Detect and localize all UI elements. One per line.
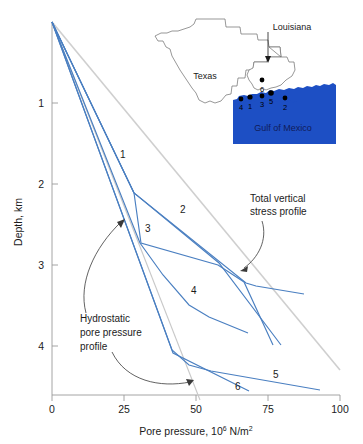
well-curve-2: [52, 22, 281, 345]
map-well-marker-label-6: 6: [260, 85, 264, 94]
curve-label-2: 2: [180, 204, 186, 215]
annotation-hydrostatic-line3: profile: [80, 341, 108, 352]
x-tick-label-50: 50: [190, 403, 202, 415]
annotation-total-vertical-stress-line2: stress profile: [250, 206, 307, 217]
x-tick-label-100: 100: [331, 403, 349, 415]
map-well-marker-label-1: 1: [248, 102, 252, 111]
y-axis-title: Depth, km: [12, 198, 24, 246]
annotation-hydrostatic-line2: pore pressure: [80, 327, 142, 338]
annotation-total-vertical-stress-arrow: [244, 221, 264, 268]
annotation-hydrostatic-line1: Hydrostatic: [80, 313, 130, 324]
x-axis-title-prefix: Pore pressure, 10: [139, 425, 223, 437]
curve-label-3: 3: [145, 223, 151, 234]
curve-label-6: 6: [235, 381, 241, 392]
x-axis-title-suffix-exponent: 2: [249, 425, 253, 432]
annotation-hydrostatic-arrow-lower: [112, 352, 190, 384]
map-well-marker-1: [247, 94, 252, 99]
x-tick-label-25: 25: [118, 403, 130, 415]
map-well-marker-label-2: 2: [283, 103, 287, 112]
y-tick-label-1: 1: [38, 97, 44, 109]
map-label-louisiana: Louisiana: [273, 22, 312, 32]
annotation-hydrostatic-pore-pressure: Hydrostatic pore pressure profile: [80, 219, 194, 386]
y-tick-label-3: 3: [38, 259, 44, 271]
inset-map: Texas Louisiana Gulf of Mexico 6 4 1 3 5…: [155, 19, 336, 144]
map-well-marker-label-3: 3: [260, 100, 264, 109]
annotation-hydrostatic-arrow-upper: [84, 222, 121, 313]
curve-label-4: 4: [191, 285, 197, 296]
map-well-marker-label-5: 5: [269, 97, 273, 106]
figure-page: Texas Louisiana Gulf of Mexico 6 4 1 3 5…: [0, 0, 363, 444]
curve-label-5: 5: [273, 369, 279, 380]
annotation-total-vertical-stress-line1: Total vertical: [250, 193, 306, 204]
y-tick-label-2: 2: [38, 178, 44, 190]
map-well-marker-5: [268, 90, 274, 96]
map-well-marker-2: [283, 96, 288, 101]
map-label-gulf-of-mexico: Gulf of Mexico: [254, 123, 312, 133]
map-label-texas: Texas: [193, 71, 217, 81]
curve-label-1: 1: [120, 149, 126, 160]
map-well-marker-label-4: 4: [239, 103, 243, 112]
map-well-marker-4: [239, 97, 244, 102]
x-axis-title: Pore pressure, 106 N/m2: [139, 425, 253, 437]
curve-labels: 1 2 3 4 5 6: [120, 149, 279, 392]
annotation-hydrostatic-arrowhead-upper: [117, 219, 125, 228]
y-tick-label-4: 4: [38, 340, 44, 352]
x-tick-label-0: 0: [49, 403, 55, 415]
x-tick-label-75: 75: [262, 403, 274, 415]
map-well-marker-6: [260, 78, 265, 83]
map-well-marker-3: [260, 94, 265, 99]
chart-axes: 1 2 3 4 0 25 50 75 100 Depth, km Pore pr…: [12, 22, 349, 437]
x-axis-title-suffix: N/m: [227, 425, 249, 437]
gulf-water-shape: [233, 83, 336, 144]
pore-pressure-depth-chart: Texas Louisiana Gulf of Mexico 6 4 1 3 5…: [0, 0, 363, 444]
annotation-total-vertical-stress-arrowhead: [240, 266, 248, 272]
